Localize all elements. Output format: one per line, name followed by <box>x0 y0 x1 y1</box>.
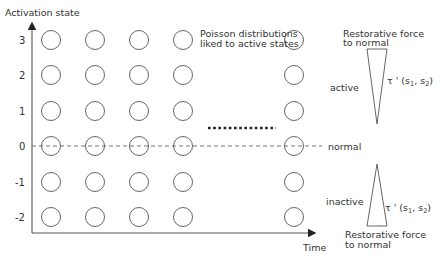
active-force-triangle <box>367 49 387 124</box>
inactive-tau-label: τ ' (s1, s2) <box>385 202 431 215</box>
y-tick-1: 1 <box>19 106 25 117</box>
inactive-force-line2: to normal <box>345 239 391 250</box>
row-minus-1 <box>42 173 304 192</box>
row-minus-2 <box>42 208 304 227</box>
poisson-note-line2: liked to active states <box>200 38 299 49</box>
y-tick-minus-2: -2 <box>15 212 25 223</box>
y-tick-3: 3 <box>19 35 25 46</box>
active-tau-label: τ ' (s1, s2) <box>387 75 433 88</box>
row-2 <box>42 66 304 85</box>
y-tick-2: 2 <box>19 70 25 81</box>
inactive-force-triangle <box>367 164 387 226</box>
y-tick-0: 0 <box>19 141 25 152</box>
y-tick-minus-1: -1 <box>15 177 25 188</box>
x-axis-label: Time <box>302 242 326 253</box>
active-label: active <box>330 82 359 93</box>
normal-label: normal <box>328 141 361 152</box>
state-circles <box>42 31 304 227</box>
inactive-label: inactive <box>326 196 364 207</box>
row-1 <box>42 102 304 121</box>
y-axis-label: Activation state <box>5 7 80 18</box>
activation-state-diagram: Activation state Time 3 2 1 0 -1 -2 norm… <box>0 0 440 263</box>
active-force-line2: to normal <box>343 37 389 48</box>
